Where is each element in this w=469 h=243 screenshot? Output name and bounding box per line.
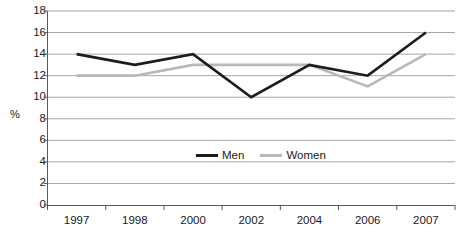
data-series <box>77 33 426 98</box>
legend-entry-women: Women <box>260 149 325 161</box>
legend-swatch-women-icon <box>260 154 282 157</box>
plot-area <box>0 0 469 243</box>
legend-swatch-men-icon <box>196 154 218 157</box>
legend-label-women: Women <box>286 149 325 161</box>
legend-entry-men: Men <box>196 149 244 161</box>
axis-lines <box>48 11 456 206</box>
legend-label-men: Men <box>222 149 244 161</box>
chart-legend: Men Women <box>196 149 326 161</box>
line-chart: % 024681012141618 1997199820002002200420… <box>0 0 469 243</box>
y-axis-ticks <box>44 11 48 205</box>
